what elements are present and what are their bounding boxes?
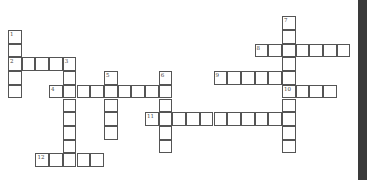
crossword-cell[interactable] (77, 153, 91, 167)
crossword-cell[interactable] (282, 99, 296, 113)
crossword-cell[interactable] (63, 140, 77, 154)
crossword-cell[interactable] (282, 30, 296, 44)
crossword-cell[interactable]: 5 (104, 71, 118, 85)
crossword-cell[interactable] (8, 71, 22, 85)
crossword-cell[interactable]: 3 (63, 57, 77, 71)
crossword-cell[interactable] (49, 57, 63, 71)
crossword-cell[interactable] (159, 140, 173, 154)
crossword-cell[interactable] (227, 71, 241, 85)
crossword-cell[interactable]: 12 (35, 153, 49, 167)
crossword-cell[interactable] (104, 112, 118, 126)
scrollbar[interactable] (358, 0, 367, 180)
crossword-cell[interactable] (282, 71, 296, 85)
crossword-cell[interactable] (63, 71, 77, 85)
crossword-cell[interactable] (63, 85, 77, 99)
clue-number: 9 (216, 72, 220, 78)
crossword-cell[interactable] (309, 85, 323, 99)
crossword-cell[interactable] (282, 112, 296, 126)
clue-number: 5 (106, 72, 110, 78)
crossword-cell[interactable] (145, 85, 159, 99)
crossword-cell[interactable] (22, 57, 36, 71)
clue-number: 2 (10, 58, 14, 64)
crossword-cell[interactable] (282, 57, 296, 71)
crossword-cell[interactable] (172, 112, 186, 126)
crossword-cell[interactable] (35, 57, 49, 71)
clue-number: 7 (284, 17, 288, 23)
clue-number: 6 (161, 72, 165, 78)
crossword-cell[interactable] (296, 44, 310, 58)
crossword-cell[interactable] (104, 85, 118, 99)
crossword-cell[interactable] (268, 44, 282, 58)
clue-number: 11 (147, 113, 154, 119)
crossword-cell[interactable] (241, 112, 255, 126)
crossword-cell[interactable] (282, 44, 296, 58)
crossword-cell[interactable] (296, 85, 310, 99)
crossword-cell[interactable]: 8 (255, 44, 269, 58)
crossword-cell[interactable]: 6 (159, 71, 173, 85)
crossword-cell[interactable] (268, 112, 282, 126)
crossword-cell[interactable] (241, 71, 255, 85)
crossword-cell[interactable] (63, 112, 77, 126)
crossword-cell[interactable]: 7 (282, 16, 296, 30)
crossword-cell[interactable] (159, 126, 173, 140)
crossword-cell[interactable] (104, 99, 118, 113)
crossword-cell[interactable] (90, 85, 104, 99)
crossword-cell[interactable]: 10 (282, 85, 296, 99)
crossword-cell[interactable] (186, 112, 200, 126)
crossword-cell[interactable] (255, 112, 269, 126)
crossword-cell[interactable] (159, 99, 173, 113)
crossword-cell[interactable] (255, 71, 269, 85)
clue-number: 1 (10, 31, 14, 37)
clue-number: 10 (284, 86, 291, 92)
crossword-cell[interactable] (118, 85, 132, 99)
crossword-cell[interactable] (268, 71, 282, 85)
crossword-cell[interactable] (282, 140, 296, 154)
crossword-cell[interactable] (309, 44, 323, 58)
crossword-cell[interactable] (159, 112, 173, 126)
crossword-cell[interactable]: 1 (8, 30, 22, 44)
crossword-cell[interactable] (49, 153, 63, 167)
crossword-cell[interactable] (200, 112, 214, 126)
crossword-cell[interactable] (63, 153, 77, 167)
crossword-cell[interactable]: 2 (8, 57, 22, 71)
crossword-cell[interactable] (131, 85, 145, 99)
crossword-cell[interactable] (104, 126, 118, 140)
clue-number: 3 (65, 58, 69, 64)
crossword-cell[interactable] (63, 126, 77, 140)
crossword-cell[interactable] (8, 85, 22, 99)
crossword-cell[interactable] (90, 153, 104, 167)
crossword-cell[interactable]: 4 (49, 85, 63, 99)
crossword-cell[interactable]: 11 (145, 112, 159, 126)
crossword-cell[interactable] (227, 112, 241, 126)
crossword-cell[interactable] (159, 85, 173, 99)
crossword-cell[interactable]: 9 (214, 71, 228, 85)
crossword-cell[interactable] (63, 99, 77, 113)
crossword-cell[interactable] (282, 126, 296, 140)
clue-number: 12 (37, 154, 44, 160)
crossword-cell[interactable] (77, 85, 91, 99)
crossword-cell[interactable] (214, 112, 228, 126)
crossword-cell[interactable] (323, 44, 337, 58)
clue-number: 8 (257, 45, 261, 51)
crossword-grid: 123456710891112 (0, 0, 358, 180)
crossword-cell[interactable] (8, 44, 22, 58)
crossword-cell[interactable] (337, 44, 351, 58)
clue-number: 4 (51, 86, 55, 92)
crossword-cell[interactable] (323, 85, 337, 99)
